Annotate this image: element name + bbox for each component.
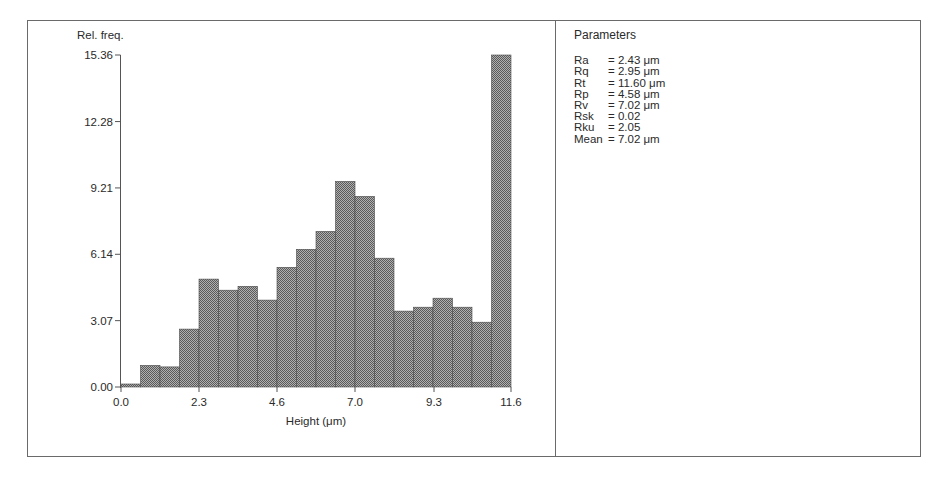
y-tick-label: 3.07 — [91, 315, 113, 327]
parameters-panel: Parameters Ra= 2.43 μmRq= 2.95 μmRt= 11.… — [574, 30, 665, 145]
y-tick-label: 0.00 — [91, 381, 113, 393]
histogram-bar — [160, 367, 180, 387]
histogram-bar — [355, 196, 375, 387]
histogram-bars — [121, 55, 511, 387]
parameter-name: Rq — [574, 66, 608, 77]
parameter-name: Rku — [574, 122, 608, 133]
histogram-bar — [121, 384, 141, 387]
histogram-chart: 0.003.076.149.2112.2815.36 0.02.34.67.09… — [0, 0, 555, 479]
y-tick-label: 12.28 — [84, 116, 113, 128]
panel-divider — [555, 20, 556, 457]
x-tick-label: 2.3 — [191, 396, 207, 408]
parameter-value: = 7.02 μm — [608, 134, 660, 145]
y-tick-label: 15.36 — [84, 49, 113, 61]
y-tick-label: 9.21 — [91, 182, 113, 194]
histogram-bar — [238, 286, 258, 387]
histogram-bar — [180, 329, 200, 387]
histogram-bar — [453, 307, 473, 387]
histogram-bar — [336, 181, 356, 387]
x-axis-label: Height (μm) — [286, 415, 346, 427]
histogram-bar — [375, 258, 395, 387]
histogram-bar — [219, 290, 239, 387]
parameter-value: = 2.05 — [608, 122, 640, 133]
histogram-bar — [414, 307, 434, 387]
x-tick-label: 11.6 — [500, 396, 522, 408]
histogram-bar — [433, 298, 453, 387]
histogram-bar — [277, 267, 297, 387]
x-tick-label: 7.0 — [347, 396, 363, 408]
histogram-bar — [394, 311, 414, 387]
parameter-value: = 2.95 μm — [608, 66, 660, 77]
x-tick-label: 4.6 — [269, 396, 285, 408]
y-tick-label: 6.14 — [91, 248, 114, 260]
parameters-title: Parameters — [574, 30, 665, 41]
y-axis-ticks: 0.003.076.149.2112.2815.36 — [84, 49, 120, 393]
histogram-bar — [492, 55, 512, 387]
histogram-bar — [258, 300, 278, 387]
x-tick-label: 9.3 — [426, 396, 442, 408]
parameter-name: Mean — [574, 134, 608, 145]
parameter-row: Rku= 2.05 — [574, 122, 665, 133]
y-axis-label: Rel. freq. — [77, 29, 124, 41]
histogram-bar — [472, 322, 492, 387]
histogram-bar — [141, 365, 161, 387]
histogram-bar — [297, 249, 317, 387]
x-tick-label: 0.0 — [113, 396, 129, 408]
parameter-row: Mean= 7.02 μm — [574, 134, 665, 145]
histogram-bar — [199, 279, 219, 387]
histogram-bar — [316, 231, 336, 387]
parameters-list: Ra= 2.43 μmRq= 2.95 μmRt= 11.60 μmRp= 4.… — [574, 55, 665, 145]
x-axis-ticks: 0.02.34.67.09.311.6 — [113, 387, 522, 408]
parameter-row: Rq= 2.95 μm — [574, 66, 665, 77]
